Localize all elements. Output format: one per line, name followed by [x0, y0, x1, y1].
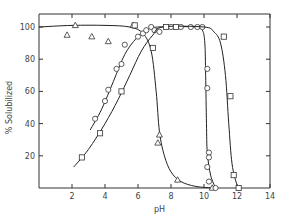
circle-marker	[206, 150, 211, 155]
square-marker	[132, 23, 137, 28]
y-tick-label: 100	[20, 23, 35, 32]
square-marker	[236, 185, 241, 190]
x-tick-label: 6	[135, 192, 140, 201]
circle-marker	[205, 86, 210, 91]
circle-marker	[102, 98, 107, 103]
x-tick-label: 2	[69, 192, 74, 201]
triangle-marker	[155, 140, 161, 145]
square-marker	[150, 45, 155, 50]
circle-marker	[122, 42, 127, 47]
square-marker	[163, 24, 168, 29]
triangle-marker	[156, 132, 162, 137]
x-tick-label: 12	[232, 192, 242, 201]
y-tick-label: 80	[25, 55, 35, 64]
solubility-chart: 246810121420406080100pH% Solubilized	[0, 0, 293, 218]
y-tick-label: 20	[25, 152, 35, 161]
series-triangles	[39, 22, 215, 190]
circle-marker	[144, 28, 149, 33]
x-tick-label: 4	[102, 192, 107, 201]
y-tick-label: 40	[25, 120, 35, 129]
circle-marker	[106, 87, 111, 92]
data-series	[39, 22, 241, 190]
x-tick-label: 10	[199, 192, 209, 201]
square-marker	[173, 24, 178, 29]
triangle-marker	[89, 33, 95, 38]
axes: 246810121420406080100pH% Solubilized	[5, 14, 275, 214]
circle-marker	[206, 179, 211, 184]
triangle-marker	[64, 32, 70, 37]
circle-marker	[119, 61, 124, 66]
square-marker	[231, 173, 236, 178]
circle-marker	[114, 66, 119, 71]
x-axis-label: pH	[154, 205, 165, 214]
y-tick-label: 60	[25, 87, 35, 96]
circle-marker	[135, 34, 140, 39]
y-axis-label: % Solubilized	[5, 81, 14, 134]
circle-marker	[93, 116, 98, 121]
square-marker	[221, 34, 226, 39]
circle-marker	[205, 164, 210, 169]
square-marker	[228, 94, 233, 99]
fit-curve	[39, 25, 214, 188]
circle-marker	[205, 66, 210, 71]
circle-marker	[188, 24, 193, 29]
triangle-marker	[105, 38, 111, 43]
circle-marker	[206, 155, 211, 160]
square-marker	[119, 89, 124, 94]
circle-marker	[157, 29, 162, 34]
square-marker	[97, 131, 102, 136]
circle-marker	[178, 24, 183, 29]
circle-marker	[168, 24, 173, 29]
square-marker	[79, 155, 84, 160]
x-tick-label: 14	[265, 192, 275, 201]
x-tick-label: 8	[168, 192, 173, 201]
circle-marker	[213, 185, 218, 190]
